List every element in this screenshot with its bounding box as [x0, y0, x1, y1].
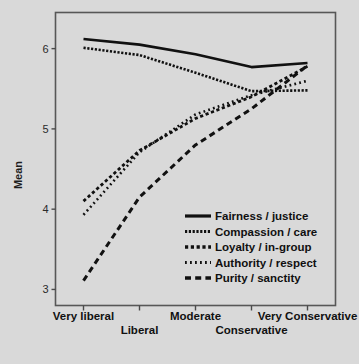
line-chart-canvas: Mean 3456 Very liberalLiberalModerateCon…	[0, 0, 359, 364]
y-tick-label: 4	[42, 203, 48, 215]
y-axis-ticks: 3456	[42, 43, 55, 296]
series-line	[84, 81, 308, 215]
x-axis-category-label: Moderate	[170, 310, 221, 322]
y-axis-title-label: Mean	[12, 161, 24, 189]
chart-legend: Fairness / justiceCompassion / careLoyal…	[185, 210, 317, 284]
legend-item-label: Fairness / justice	[215, 210, 308, 222]
y-tick-label: 5	[42, 123, 48, 135]
legend-item-label: Purity / sanctity	[215, 272, 301, 284]
chart-figure: Mean 3456 Very liberalLiberalModerateCon…	[0, 0, 359, 364]
series-line	[84, 66, 308, 201]
legend-item-label: Loyalty / in-group	[215, 241, 311, 253]
y-tick-label: 3	[42, 283, 48, 295]
y-axis-title: Mean	[12, 161, 24, 189]
x-axis-category-label: Conservative	[215, 324, 287, 336]
y-tick-label: 6	[42, 43, 48, 55]
legend-item-label: Authority / respect	[215, 257, 317, 269]
x-axis-category-labels: Very liberalLiberalModerateConservativeV…	[53, 310, 358, 336]
x-axis-category-label: Liberal	[121, 324, 159, 336]
series-line	[84, 39, 308, 67]
x-axis-category-label: Very liberal	[53, 310, 114, 322]
x-axis-category-label: Very Conservative	[258, 310, 358, 322]
legend-item-label: Compassion / care	[215, 226, 317, 238]
